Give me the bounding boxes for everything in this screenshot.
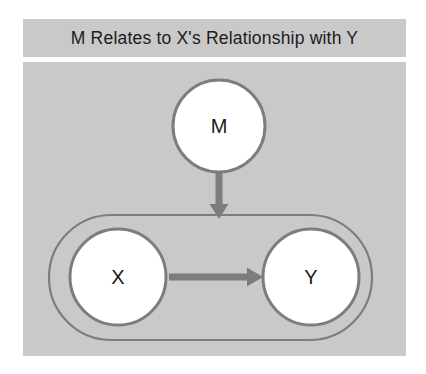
edge-x-to-y xyxy=(169,268,263,287)
node-x: X xyxy=(70,229,166,325)
node-m: M xyxy=(173,80,265,172)
node-x-label: X xyxy=(111,266,124,288)
path-diagram: M X Y xyxy=(23,62,406,356)
edge-m-to-xy xyxy=(210,172,229,219)
figure-container: M Relates to X's Relationship with Y xyxy=(0,0,426,374)
figure-title-band: M Relates to X's Relationship with Y xyxy=(23,19,406,57)
node-y: Y xyxy=(263,229,359,325)
diagram-panel: M X Y xyxy=(23,62,406,356)
node-y-label: Y xyxy=(304,266,317,288)
node-m-label: M xyxy=(211,115,228,137)
page-title: M Relates to X's Relationship with Y xyxy=(71,28,358,49)
